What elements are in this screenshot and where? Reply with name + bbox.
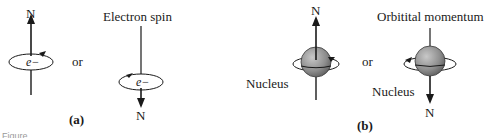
nucleus-sphere xyxy=(415,46,445,76)
orbital-momentum-title: Orbitital momentum xyxy=(377,10,484,23)
panel-a-label: (a) xyxy=(69,113,84,126)
electron-spin-down-diagram xyxy=(119,26,163,108)
arrowhead-down-icon xyxy=(137,98,145,108)
electron-spin-title: Electron spin xyxy=(103,10,172,23)
arrowhead-down-icon xyxy=(426,94,434,104)
or-connector: or xyxy=(72,55,83,68)
north-pole-label: N xyxy=(136,109,145,122)
north-pole-label: N xyxy=(311,4,320,17)
north-pole-label: N xyxy=(26,7,35,20)
figure-caption: Figure xyxy=(2,131,28,138)
nucleus-label: Nucleus xyxy=(372,85,415,98)
rotation-arrow-icon xyxy=(405,57,412,63)
nucleus-spin-up-diagram xyxy=(293,16,339,100)
or-connector: or xyxy=(362,55,373,68)
electron-label: e− xyxy=(135,76,150,88)
nucleus-label: Nucleus xyxy=(246,77,289,90)
panel-b-label: (b) xyxy=(357,119,373,132)
rotation-arrow-icon xyxy=(126,73,133,78)
electron-label: e− xyxy=(25,56,40,68)
north-pole-label: N xyxy=(425,106,434,119)
